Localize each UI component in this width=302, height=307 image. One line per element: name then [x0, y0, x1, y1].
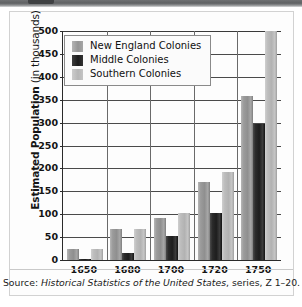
- y-tick-label-150: 150: [38, 187, 58, 197]
- bar-chart-figure: Estimated Population (in thousands) 0501…: [10, 12, 293, 270]
- y-tick-label-100: 100: [38, 209, 58, 219]
- y-tick-label-0: 0: [51, 255, 58, 265]
- legend-item-1[interactable]: Middle Colonies: [72, 55, 201, 66]
- bar-1680-series-2[interactable]: [134, 229, 146, 260]
- y-tick-label-350: 350: [38, 95, 58, 105]
- y-tick-label-50: 50: [45, 232, 58, 242]
- bar-1700-series-2[interactable]: [178, 213, 190, 260]
- bar-group-1750: [237, 31, 281, 260]
- source-suffix: , series, Z 1–20.: [226, 277, 300, 288]
- bar-1750-series-1[interactable]: [253, 124, 265, 260]
- bar-1720-series-0[interactable]: [198, 182, 210, 260]
- y-tick-label-400: 400: [38, 72, 58, 82]
- chart-card: Estimated Population (in thousands) 0501…: [9, 11, 294, 296]
- bar-1700-series-1[interactable]: [166, 236, 178, 260]
- bar-1680-series-0[interactable]: [110, 229, 122, 260]
- bar-1650-series-1[interactable]: [79, 259, 91, 260]
- bar-1750-series-0[interactable]: [241, 96, 253, 260]
- source-prefix: Source:: [3, 277, 41, 288]
- bar-1650-series-2[interactable]: [91, 249, 103, 260]
- source-text: Source: Historical Statistics of the Uni…: [3, 277, 300, 288]
- legend-label-0: New England Colonies: [90, 41, 201, 52]
- legend-swatch-icon-0: [72, 41, 83, 52]
- bar-1750-series-2[interactable]: [265, 31, 277, 260]
- chart-legend: New England ColoniesMiddle ColoniesSouth…: [64, 35, 211, 86]
- bar-1700-series-0[interactable]: [154, 218, 166, 260]
- bar-1720-series-1[interactable]: [210, 213, 222, 260]
- legend-swatch-icon-2: [72, 69, 83, 80]
- source-footer: Source: Historical Statistics of the Uni…: [10, 269, 293, 295]
- y-axis-title: Estimated Population (in thousands): [29, 10, 41, 210]
- legend-label-1: Middle Colonies: [90, 55, 169, 66]
- y-tick-mark-0: [60, 260, 63, 261]
- legend-swatch-icon-1: [72, 55, 83, 66]
- top-decorative-band: [0, 0, 302, 7]
- bar-1680-series-1[interactable]: [122, 253, 134, 260]
- legend-label-2: Southern Colonies: [90, 69, 181, 80]
- bar-1650-series-0[interactable]: [67, 249, 79, 260]
- top-band-nub: [28, 0, 54, 4]
- y-tick-label-450: 450: [38, 49, 58, 59]
- y-tick-label-250: 250: [38, 141, 58, 151]
- y-tick-label-200: 200: [38, 164, 58, 174]
- source-title: Historical Statistics of the United Stat…: [41, 277, 226, 288]
- legend-item-0[interactable]: New England Colonies: [72, 41, 201, 52]
- bar-1720-series-2[interactable]: [222, 172, 234, 260]
- legend-item-2[interactable]: Southern Colonies: [72, 69, 201, 80]
- y-tick-label-300: 300: [38, 118, 58, 128]
- y-tick-label-500: 500: [38, 26, 58, 36]
